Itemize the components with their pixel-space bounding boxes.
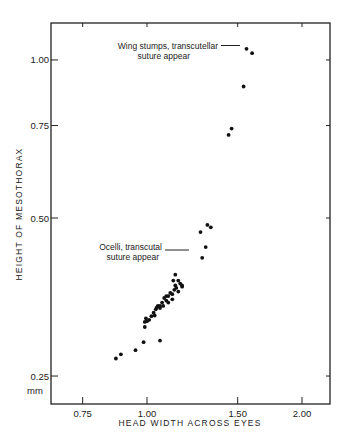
- data-point: [164, 294, 168, 298]
- y-tick-label: 0.50: [31, 213, 50, 224]
- data-point: [155, 305, 159, 309]
- annotation-wing-stumps-line2: suture appear: [138, 51, 191, 61]
- data-point: [114, 357, 118, 361]
- data-point: [174, 286, 178, 290]
- plot-frame: [51, 23, 330, 404]
- y-axis-ticks: 0.250.500.751.00: [31, 54, 331, 381]
- scatter-chart: 0.751.001.502.00 0.250.500.751.00 Wing s…: [0, 0, 347, 447]
- x-axis-title: HEAD WIDTH ACROSS EYES: [118, 418, 261, 428]
- annotation-wing-stumps: Wing stumps, transcutellar: [118, 41, 218, 51]
- data-point: [227, 133, 231, 137]
- annotations: Wing stumps, transcutellarsuture appearO…: [99, 41, 240, 262]
- data-point: [158, 339, 162, 343]
- plot-border: [51, 23, 330, 404]
- data-point: [176, 290, 180, 294]
- data-point: [204, 245, 208, 249]
- data-point: [147, 318, 151, 322]
- x-tick-label: 2.00: [293, 408, 312, 419]
- data-point: [209, 225, 213, 229]
- annotation-ocelli-line2: suture appear: [107, 252, 160, 262]
- data-point: [166, 301, 170, 305]
- y-tick-label: 1.00: [31, 54, 50, 65]
- data-point: [176, 279, 180, 283]
- data-point: [245, 47, 249, 51]
- data-point: [250, 51, 254, 55]
- data-point: [171, 279, 175, 283]
- x-axis-ticks: 0.751.001.502.00: [73, 23, 311, 419]
- data-point: [170, 292, 174, 296]
- y-axis-title: HEIGHT OF MESOTHORAX: [14, 148, 24, 281]
- data-point: [200, 256, 204, 260]
- data-point: [199, 230, 203, 234]
- y-tick-label: 0.75: [31, 120, 50, 131]
- data-point: [242, 85, 246, 89]
- data-points: [114, 47, 254, 361]
- data-point: [160, 301, 164, 305]
- data-point: [206, 223, 210, 227]
- data-point: [153, 314, 157, 318]
- y-axis-unit: mm: [27, 385, 43, 396]
- annotation-ocelli: Ocelli, transcutal: [99, 242, 162, 252]
- x-tick-label: 0.75: [73, 408, 92, 419]
- data-point: [119, 352, 123, 356]
- data-point: [173, 273, 177, 277]
- data-point: [134, 348, 138, 352]
- data-point: [230, 127, 234, 131]
- data-point: [150, 314, 154, 318]
- data-point: [142, 340, 146, 344]
- y-tick-label: 0.25: [31, 371, 50, 382]
- data-point: [143, 325, 147, 329]
- data-point: [170, 297, 174, 301]
- data-point: [180, 284, 184, 288]
